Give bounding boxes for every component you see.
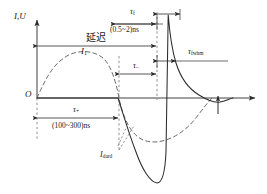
- figure-root: I,U O τf (0.5~2)ns 延迟 I1 τfwhm τ– τ+ (10…: [0, 0, 267, 194]
- i-dard-label: Idard: [100, 151, 112, 160]
- tau-minus-subscript: –: [136, 64, 139, 70]
- optical-output-curve: [37, 15, 233, 183]
- tau-f-subscript: f: [133, 10, 135, 16]
- tau-f-range-label: (0.5~2)ns: [110, 26, 139, 34]
- y-axis-label: I,U: [14, 12, 26, 21]
- i1-label: I1: [81, 47, 87, 56]
- tau-fwhm-label: τfwhm: [188, 48, 204, 57]
- origin-label: O: [25, 90, 32, 99]
- tau-fwhm-subscript: fwhm: [191, 50, 204, 56]
- i-dard-subscript: dard: [103, 153, 113, 159]
- delay-label: 延迟: [86, 33, 106, 43]
- i1-subscript: 1: [84, 50, 87, 56]
- tau-minus-label: τ–: [133, 62, 139, 71]
- tau-f-label: τf: [130, 8, 135, 17]
- tau-plus-label: τ+: [73, 106, 79, 115]
- tau-plus-subscript: +: [76, 108, 79, 114]
- tau-plus-range-label: (100~300)ns: [52, 122, 90, 130]
